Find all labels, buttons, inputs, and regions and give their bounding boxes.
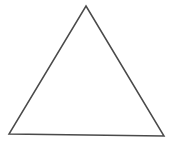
drawing-canvas xyxy=(0,0,173,144)
triangle-figure xyxy=(0,0,173,144)
canvas-background xyxy=(0,0,173,144)
